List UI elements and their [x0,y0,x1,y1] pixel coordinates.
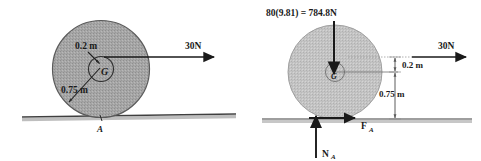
right-normal-subscript: A [330,153,336,161]
left-inner-radius-label: 0.2 m [75,41,97,51]
left-contact-label: A [96,124,103,134]
right-ground-line [262,119,472,122]
left-force-label: 30N [185,41,202,51]
right-normal-label-group: N A [322,149,336,161]
right-weight-label: 80(9.81) = 784.8N [266,8,337,19]
right-force-label: 30N [438,41,455,51]
mechanics-figure: 0.2 m 0.75 m G A 30N [0,0,481,161]
left-ground-line [22,114,236,120]
right-dim-large-label: 0.75 m [379,89,405,99]
right-friction-subscript: A [368,126,374,134]
left-outer-radius-label: 0.75 m [61,85,88,95]
right-normal-label: N [322,149,329,159]
right-panel: 80(9.81) = 784.8N 30N 0.2 m 0.75 m G F A… [262,8,472,161]
left-center-label: G [101,66,109,77]
right-center-label: G [331,72,337,81]
figure-root: 0.2 m 0.75 m G A 30N [0,0,481,161]
left-panel: 0.2 m 0.75 m G A 30N [22,21,236,135]
right-friction-label: F [361,121,367,131]
right-dim-small-label: 0.2 m [402,60,424,70]
